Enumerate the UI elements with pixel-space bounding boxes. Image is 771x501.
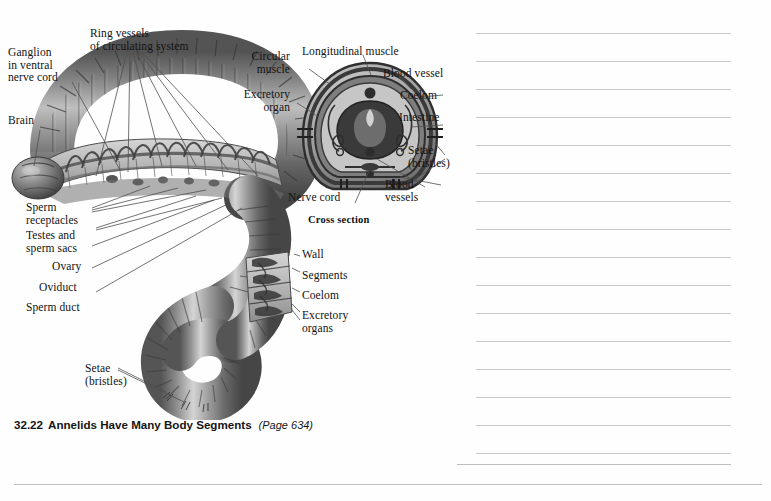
label-ganglion: Ganglion in ventral nerve cord bbox=[8, 46, 58, 84]
note-line bbox=[476, 173, 731, 174]
note-line bbox=[476, 313, 731, 314]
caption-page-ref: (Page 634) bbox=[259, 419, 313, 431]
label-blood-vessel: Blood vessel bbox=[383, 67, 443, 80]
label-sperm-receptacles: Sperm receptacles bbox=[26, 201, 78, 226]
label-circular-muscle: Circular muscle bbox=[222, 50, 290, 75]
textbook-page: Ganglion in ventral nerve cord Brain Spe… bbox=[0, 0, 771, 501]
note-line bbox=[476, 61, 731, 62]
note-line bbox=[476, 33, 731, 34]
label-ring-vessels: Ring vessels of circulating system bbox=[90, 27, 189, 52]
cs-dorsal-blood-vessel bbox=[365, 88, 376, 99]
label-sperm-duct: Sperm duct bbox=[26, 301, 80, 314]
note-line bbox=[476, 257, 731, 258]
label-wall: Wall bbox=[302, 248, 324, 261]
note-line bbox=[476, 145, 731, 146]
label-setae-bristles: Setae (bristles) bbox=[85, 362, 127, 387]
lower-cutaway-block bbox=[246, 252, 292, 322]
label-coelom: Coelom bbox=[400, 89, 437, 102]
label-intestine: Intestine bbox=[399, 111, 440, 124]
note-line bbox=[476, 285, 731, 286]
note-line bbox=[476, 89, 731, 90]
cs-nerve-cord bbox=[361, 163, 379, 171]
worm-head bbox=[12, 157, 64, 199]
label-brain: Brain bbox=[8, 114, 34, 127]
note-line bbox=[476, 201, 731, 202]
note-line bbox=[476, 341, 731, 342]
label-coelom-body: Coelom bbox=[302, 289, 339, 302]
note-line bbox=[476, 369, 731, 370]
figure-caption: 32.22Annelids Have Many Body Segments(Pa… bbox=[14, 418, 313, 431]
caption-title: Annelids Have Many Body Segments bbox=[48, 418, 252, 431]
annelid-figure: Ganglion in ventral nerve cord Brain Spe… bbox=[0, 0, 460, 460]
label-segments: Segments bbox=[302, 269, 348, 282]
label-oviduct: Oviduct bbox=[39, 281, 77, 294]
cross-section-title: Cross section bbox=[308, 214, 370, 227]
note-line bbox=[476, 117, 731, 118]
note-line bbox=[476, 425, 731, 426]
note-line bbox=[476, 453, 731, 454]
label-excretory-organs: Excretory organs bbox=[302, 309, 348, 334]
note-line bbox=[476, 397, 731, 398]
page-bottom-border bbox=[14, 484, 762, 485]
label-blood-vessels: Blood vessels bbox=[385, 178, 418, 203]
label-excretory-organ: Excretory organ bbox=[222, 88, 290, 113]
note-line bbox=[476, 229, 731, 230]
label-testes-sperm-sacs: Testes and sperm sacs bbox=[26, 229, 77, 254]
label-ovary: Ovary bbox=[52, 260, 81, 273]
note-line-last bbox=[457, 464, 731, 465]
label-setae-bristles-cs: Setae (bristles) bbox=[408, 144, 450, 169]
label-longitudinal-muscle: Longitudinal muscle bbox=[302, 45, 399, 58]
cs-ventral-blood-vessel bbox=[365, 147, 374, 156]
caption-number: 32.22 bbox=[14, 418, 43, 431]
label-nerve-cord: Nerve cord bbox=[288, 191, 340, 204]
